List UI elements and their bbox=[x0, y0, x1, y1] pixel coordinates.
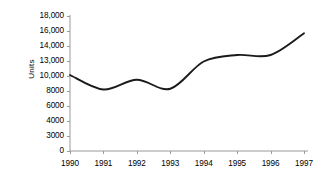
chart-svg bbox=[0, 0, 322, 177]
line-chart: Units 0300040006000800010,00013,00014,00… bbox=[0, 0, 322, 177]
data-series-line bbox=[70, 33, 304, 89]
plot-area bbox=[0, 0, 322, 177]
